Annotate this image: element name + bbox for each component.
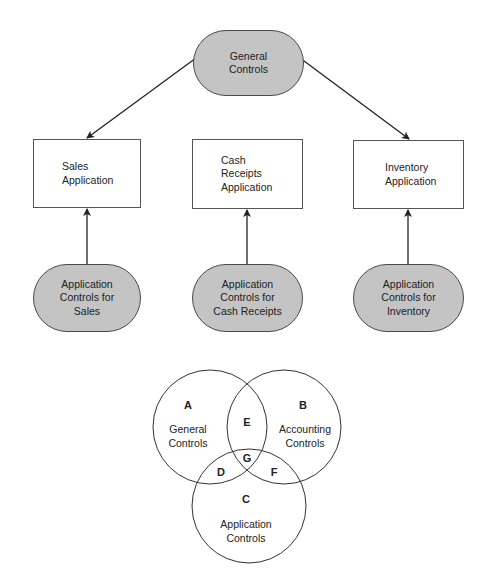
inventory-controls-label: Application Controls for Inventory	[381, 278, 435, 319]
venn-circle-application	[192, 449, 306, 563]
venn-letter-b: B	[299, 399, 307, 411]
arrow-general-to-sales	[87, 58, 196, 138]
cash-receipts-application-box: Cash Receipts Application	[192, 139, 303, 209]
cash-receipts-controls-node: Application Controls for Cash Receipts	[192, 264, 303, 332]
cash-receipts-application-label: Cash Receipts Application	[221, 154, 272, 195]
sales-controls-node: Application Controls for Sales	[33, 264, 141, 332]
venn-letter-d: D	[217, 466, 225, 478]
sales-controls-label: Application Controls for Sales	[60, 278, 114, 319]
venn-letter-a: A	[184, 399, 192, 411]
arrow-general-to-inventory	[300, 58, 409, 139]
venn-label-general: General Controls	[168, 423, 207, 450]
general-controls-label: General Controls	[229, 50, 268, 77]
venn-letter-e: E	[243, 416, 250, 428]
venn-label-application: Application Controls	[220, 518, 271, 545]
venn-letter-g: G	[243, 452, 252, 464]
venn-letter-f: F	[271, 466, 278, 478]
inventory-controls-node: Application Controls for Inventory	[353, 264, 464, 332]
cash-receipts-controls-label: Application Controls for Cash Receipts	[213, 278, 281, 319]
sales-application-label: Sales Application	[62, 160, 113, 187]
general-controls-node: General Controls	[193, 30, 304, 96]
inventory-application-box: Inventory Application	[353, 140, 464, 209]
inventory-application-label: Inventory Application	[385, 161, 436, 188]
sales-application-box: Sales Application	[33, 139, 141, 208]
venn-label-accounting: Accounting Controls	[279, 423, 331, 450]
venn-letter-c: C	[242, 493, 250, 505]
